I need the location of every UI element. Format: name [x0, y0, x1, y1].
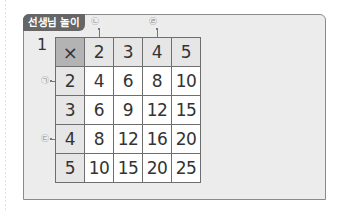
corner-cell: ×: [56, 38, 85, 67]
column-header: 3: [114, 38, 143, 67]
marker-col-4: ㉣: [149, 18, 157, 26]
table-cell: 8: [143, 67, 172, 96]
table-cell: 15: [172, 96, 201, 125]
problem-number: 1: [37, 35, 47, 54]
multiplication-table: × 2 3 4 5 2 4 6 8 10 3 6 9 12 15 4 8 12 …: [55, 37, 201, 183]
table-cell: 20: [172, 125, 201, 154]
table-cell: 12: [143, 96, 172, 125]
row-header: 2: [56, 67, 85, 96]
column-header: 4: [143, 38, 172, 67]
table-cell: 9: [114, 96, 143, 125]
margin-rule: [5, 0, 6, 212]
row-header: 5: [56, 154, 85, 183]
table-cell: 6: [114, 67, 143, 96]
table-cell: 4: [85, 67, 114, 96]
table-cell: 25: [172, 154, 201, 183]
marker-col-2: ㉡: [91, 18, 99, 26]
table-cell: 10: [85, 154, 114, 183]
table-cell: 20: [143, 154, 172, 183]
section-badge: 선생님 놀이: [23, 14, 85, 31]
marker-row-4: ㉢: [41, 135, 49, 143]
column-header: 5: [172, 38, 201, 67]
table-cell: 10: [172, 67, 201, 96]
table-cell: 12: [114, 125, 143, 154]
worksheet-page: 선생님 놀이 1 ㉡ ㉣ ㉠ ㉢ × 2 3 4 5 2 4 6 8 10 3 …: [0, 0, 342, 212]
marker-row-2: ㉠: [41, 77, 49, 85]
row-header: 3: [56, 96, 85, 125]
column-header: 2: [85, 38, 114, 67]
row-header: 4: [56, 125, 85, 154]
table-cell: 15: [114, 154, 143, 183]
table-cell: 6: [85, 96, 114, 125]
table-cell: 16: [143, 125, 172, 154]
table-cell: 8: [85, 125, 114, 154]
